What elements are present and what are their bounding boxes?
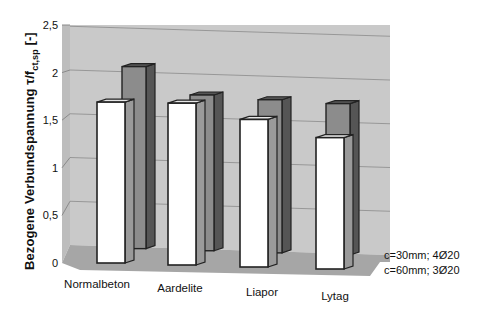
y-tick-label: 0 [52,257,58,269]
legend: c=30mm; 4Ø20c=60mm; 3Ø20 [384,249,460,276]
bar-aardelite-c30 [168,100,205,265]
bar-face [316,138,344,269]
y-axis-ticks: 00,511,522,5 [43,19,58,269]
x-label-lytag: Lytag [321,290,349,302]
x-label-normalbeton: Normalbeton [64,278,130,290]
bar-side [146,64,155,249]
legend-entry: c=30mm; 4Ø20 [384,249,460,261]
bar-liapor-c30 [240,116,277,267]
legend-entry: c=60mm; 3Ø20 [384,264,460,276]
bar-face [168,103,196,265]
bar-side [268,116,277,267]
bar-chart-3d: 00,511,522,5 NormalbetonAardeliteLiaporL… [0,0,494,315]
y-tick-label: 1,5 [43,114,58,126]
x-label-liapor: Liapor [246,286,278,298]
bar-side [282,97,291,253]
bar-side [196,100,205,265]
bar-side [125,99,134,263]
y-tick-label: 1 [52,162,58,174]
y-tick-label: 2,5 [43,19,58,31]
x-axis-labels: NormalbetonAardeliteLiaporLytag [64,278,349,302]
bar-lytag-c30 [316,135,353,269]
bar-side [214,92,223,251]
bar-normalbeton-c30 [97,99,134,263]
y-tick-label: 2 [52,67,58,79]
bar-face [97,102,125,263]
y-axis-label: Bezogene Verbundspannung τ/fct,sp [-] [22,32,40,270]
x-label-aardelite: Aardelite [157,282,202,294]
bar-side [344,135,353,269]
bar-face [240,119,268,267]
y-tick-label: 0,5 [43,209,58,221]
side-wall [62,25,70,263]
